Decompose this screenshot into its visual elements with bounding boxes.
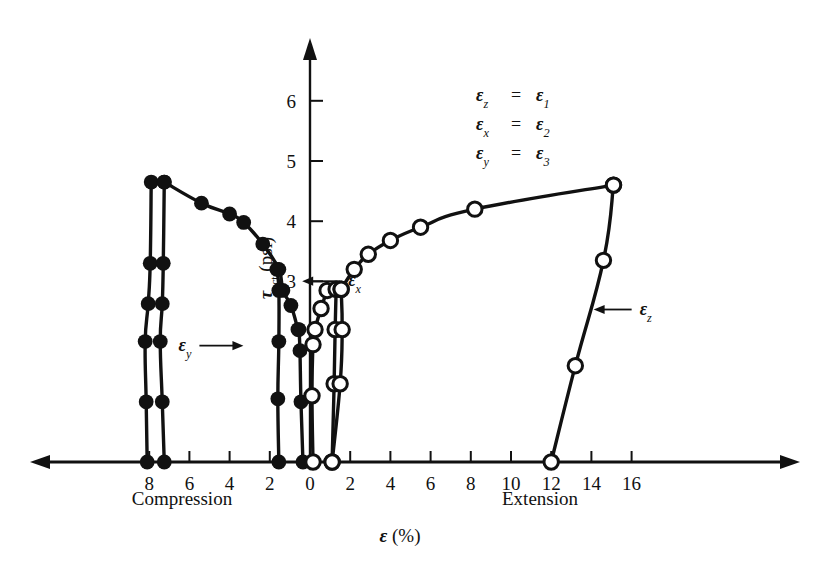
annotation-epsilon-z: εz xyxy=(640,299,652,325)
x-tick-label-compression: 2 xyxy=(265,473,275,494)
y-tick-label: 4 xyxy=(287,211,297,232)
data-point-filled xyxy=(236,215,251,230)
series-line xyxy=(277,269,279,462)
series-line xyxy=(341,185,613,289)
x-tick-label-extension: 4 xyxy=(386,473,396,494)
data-point-open xyxy=(334,282,348,296)
x-tick-label-extension: 8 xyxy=(466,473,476,494)
y-tick-label: 6 xyxy=(287,91,297,112)
data-point-open xyxy=(308,322,322,336)
chart-svg: 864202468101214163456τoct (psi)ε (%)Comp… xyxy=(0,0,828,567)
y-axis-arrow-icon xyxy=(303,38,317,60)
data-point-filled xyxy=(138,334,153,349)
data-point-filled xyxy=(271,455,286,470)
x-tick-label-extension: 14 xyxy=(582,473,602,494)
data-point-open xyxy=(335,322,349,336)
annotation-arrow-icon xyxy=(232,341,243,350)
legend-lhs: εz xyxy=(476,85,488,111)
data-point-open xyxy=(314,301,328,315)
data-point-filled xyxy=(155,394,170,409)
data-point-filled xyxy=(144,175,159,190)
data-point-open xyxy=(383,233,397,247)
data-point-open xyxy=(413,220,427,234)
chart-figure: 864202468101214163456τoct (psi)ε (%)Comp… xyxy=(0,0,828,567)
legend-equals: = xyxy=(511,143,521,163)
data-point-filled xyxy=(139,394,154,409)
legend-equals: = xyxy=(511,114,521,134)
data-point-filled xyxy=(155,296,170,311)
series-line xyxy=(551,185,613,462)
data-point-open xyxy=(568,358,582,372)
data-point-open xyxy=(468,202,482,216)
x-axis-right-arrow-icon xyxy=(780,455,800,469)
region-label-extension: Extension xyxy=(502,488,578,509)
x-axis-left-arrow-icon xyxy=(30,455,50,469)
data-point-filled xyxy=(157,175,172,190)
data-point-filled xyxy=(269,262,284,277)
data-point-open xyxy=(544,455,558,469)
annotation-arrow-icon xyxy=(302,277,313,286)
annotation-arrow-icon xyxy=(594,305,605,314)
data-point-filled xyxy=(153,334,168,349)
x-tick-label-extension: 0 xyxy=(305,473,315,494)
region-label-compression: Compression xyxy=(132,488,233,509)
data-point-open xyxy=(306,337,320,351)
data-point-filled xyxy=(271,283,286,298)
legend-rhs: ε2 xyxy=(536,114,550,140)
data-point-open xyxy=(361,247,375,261)
legend-equals: = xyxy=(511,85,521,105)
data-point-open xyxy=(596,253,610,267)
data-point-open xyxy=(306,455,320,469)
x-tick-label-extension: 6 xyxy=(426,473,436,494)
data-point-filled xyxy=(222,207,237,222)
data-point-filled xyxy=(292,322,307,337)
y-tick-label: 5 xyxy=(287,151,297,172)
data-point-filled xyxy=(143,256,158,271)
data-point-open xyxy=(333,377,347,391)
series-line xyxy=(145,182,151,462)
legend-lhs: εy xyxy=(476,143,489,169)
data-point-open xyxy=(305,389,319,403)
data-point-filled xyxy=(270,391,285,406)
data-point-filled xyxy=(140,455,155,470)
legend-lhs: εx xyxy=(476,114,489,140)
data-point-filled xyxy=(255,237,270,252)
data-point-open xyxy=(325,455,339,469)
legend-rhs: ε3 xyxy=(536,143,550,169)
data-point-filled xyxy=(194,196,209,211)
data-point-filled xyxy=(271,334,286,349)
legend-rhs: ε1 xyxy=(536,85,550,111)
data-point-filled xyxy=(157,455,172,470)
series-line xyxy=(160,182,164,462)
data-point-filled xyxy=(156,256,171,271)
data-point-filled xyxy=(141,296,156,311)
annotation-epsilon-y: εy xyxy=(179,335,192,361)
x-tick-label-extension: 16 xyxy=(622,473,641,494)
x-tick-label-extension: 2 xyxy=(345,473,355,494)
data-point-filled xyxy=(284,298,299,313)
x-axis-title: ε (%) xyxy=(379,525,420,547)
data-point-open xyxy=(606,178,620,192)
